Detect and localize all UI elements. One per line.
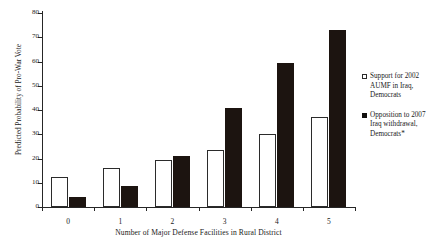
chart-legend: Support for 2002 AUMF in Iraq, Democrats… — [362, 72, 427, 150]
legend-entry-2: Opposition to 2007 Iraq withdrawal, Demo… — [362, 111, 427, 140]
x-axis-tick-label: 2 — [157, 217, 187, 226]
x-axis-tick-mark — [42, 207, 43, 211]
bar-opposition-0 — [69, 197, 86, 207]
bar-opposition-5 — [329, 30, 346, 207]
x-axis-tick-label: 4 — [262, 217, 292, 226]
bar-opposition-1 — [121, 186, 138, 207]
y-axis-tick-label: 60 — [32, 56, 39, 67]
x-axis-tick-mark — [94, 207, 95, 211]
x-axis-tick-label: 3 — [210, 217, 240, 226]
y-axis-tick-label: 30 — [32, 128, 39, 139]
filled-square-marker — [362, 113, 367, 118]
x-axis-tick-label: 1 — [105, 217, 135, 226]
x-axis-tick-mark — [251, 207, 252, 211]
y-axis-tick-label: 10 — [32, 177, 39, 188]
legend-entry-label: Support for 2002 AUMF in Iraq, Democrats — [370, 72, 427, 101]
y-axis-tick-label: 20 — [32, 153, 39, 164]
bar-support-3 — [207, 150, 224, 207]
bar-chart-figure: 01020304050607080012345 Predicted Probab… — [0, 0, 427, 248]
open-square-marker — [362, 74, 367, 79]
bar-support-4 — [259, 134, 276, 207]
x-axis-tick-mark — [303, 207, 304, 211]
bar-support-0 — [51, 177, 68, 207]
x-axis-tick-mark — [355, 207, 356, 211]
bar-opposition-4 — [277, 63, 294, 207]
x-axis-title: Number of Major Defense Facilities in Ru… — [42, 228, 355, 237]
y-axis-tick-label: 80 — [32, 7, 39, 18]
bar-support-5 — [311, 117, 328, 207]
bar-opposition-3 — [225, 108, 242, 207]
x-axis-tick-label: 0 — [53, 217, 83, 226]
bar-support-1 — [103, 168, 120, 207]
y-axis-tick-label: 50 — [32, 80, 39, 91]
legend-entry-1: Support for 2002 AUMF in Iraq, Democrats — [362, 72, 427, 101]
bar-support-2 — [155, 160, 172, 207]
plot-area: 01020304050607080012345 — [42, 13, 355, 207]
bar-opposition-2 — [173, 156, 190, 207]
legend-entry-label: Opposition to 2007 Iraq withdrawal, Demo… — [370, 111, 427, 140]
y-axis-tick-label: 70 — [32, 31, 39, 42]
y-axis-tick-label: 40 — [32, 104, 39, 115]
y-axis-tick-label: 0 — [36, 201, 40, 212]
x-axis-tick-mark — [199, 207, 200, 211]
x-axis-tick-label: 5 — [314, 217, 344, 226]
x-axis-tick-mark — [146, 207, 147, 211]
y-axis-title: Predicted Probability of Pro-War Vote — [14, 20, 23, 180]
